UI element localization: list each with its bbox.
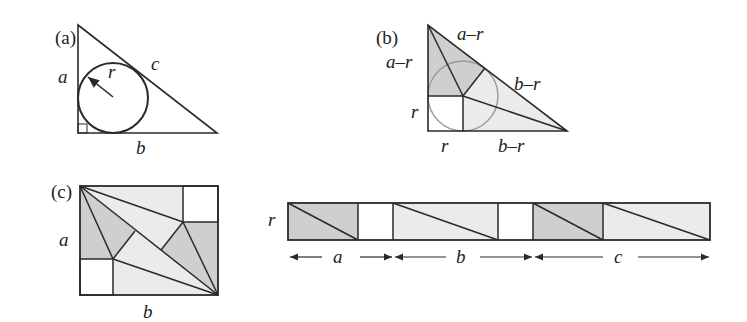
white-square-2 bbox=[498, 203, 533, 240]
panel-c: (c) a b bbox=[51, 181, 218, 322]
label-b: b bbox=[456, 246, 466, 267]
label-r: r bbox=[268, 209, 276, 230]
right-angle-marker bbox=[78, 124, 87, 133]
rearranged-strip: r a b c bbox=[268, 203, 710, 267]
label-a: a bbox=[59, 229, 69, 250]
label-c: c bbox=[151, 53, 160, 74]
white-square-bottom-left bbox=[80, 259, 113, 295]
incircle-proof-diagram: (a) a r c b (b) a–r a–r b–r r r b–r (c) bbox=[0, 0, 747, 322]
panel-c-tag: (c) bbox=[51, 181, 72, 203]
label-bottom-right: b–r bbox=[498, 135, 525, 156]
label-b: b bbox=[143, 301, 153, 322]
right-triangle bbox=[78, 25, 217, 133]
label-a: a bbox=[58, 66, 68, 87]
panel-b-tag: (b) bbox=[376, 27, 398, 49]
label-right-hyp: b–r bbox=[514, 73, 541, 94]
panel-a: (a) a r c b bbox=[55, 25, 217, 158]
label-c: c bbox=[614, 246, 623, 267]
white-square-top-right bbox=[183, 186, 218, 222]
label-bottom-left: r bbox=[441, 135, 449, 156]
label-top-hyp: a–r bbox=[457, 23, 484, 44]
label-r: r bbox=[108, 61, 116, 82]
panel-a-tag: (a) bbox=[55, 27, 76, 49]
white-square-1 bbox=[358, 203, 393, 240]
label-b: b bbox=[136, 137, 146, 158]
label-left-lower: r bbox=[411, 101, 419, 122]
panel-b: (b) a–r a–r b–r r r b–r bbox=[376, 23, 567, 156]
label-left-upper: a–r bbox=[386, 51, 413, 72]
label-a: a bbox=[333, 246, 343, 267]
